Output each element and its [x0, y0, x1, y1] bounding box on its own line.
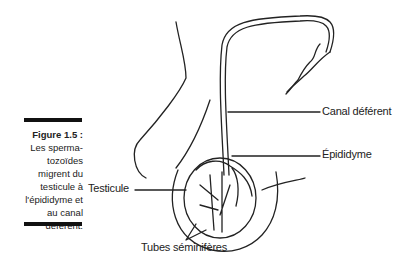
label-canal-deferent: Canal déférent	[322, 105, 391, 117]
label-epididyme: Épididyme	[322, 148, 372, 160]
label-tubes-seminiferes: Tubes séminifères	[141, 241, 227, 253]
label-testicule: Testicule	[88, 182, 129, 194]
anatomy-illustration	[0, 0, 408, 264]
